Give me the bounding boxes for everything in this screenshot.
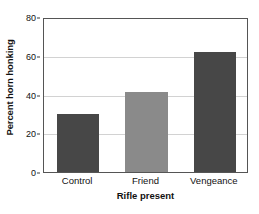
- y-tick-label: 20: [26, 129, 36, 139]
- bar-series: [44, 19, 247, 172]
- y-tick-mark: [37, 18, 40, 19]
- bar-friend: [125, 92, 167, 172]
- y-tick-label: 80: [26, 13, 36, 23]
- y-tick-mark: [37, 173, 40, 174]
- bar-vengeance: [194, 52, 236, 172]
- x-axis-ticks: ControlFriendVengeance: [43, 175, 248, 189]
- x-tick-label-friend: Friend: [132, 175, 159, 186]
- bar-chart-figure: Percent horn honking 020406080 ControlFr…: [0, 0, 259, 214]
- x-tick-label-vengeance: Vengeance: [190, 175, 238, 186]
- x-axis-title: Rifle present: [43, 190, 248, 201]
- y-tick-label: 40: [26, 91, 36, 101]
- y-tick-mark: [37, 95, 40, 96]
- y-tick-label: 0: [31, 168, 36, 178]
- y-tick-label: 60: [26, 52, 36, 62]
- y-axis-ticks: 020406080: [16, 0, 40, 214]
- x-tick-label-control: Control: [62, 175, 93, 186]
- y-tick-mark: [37, 56, 40, 57]
- plot-area: [43, 18, 248, 173]
- bar-control: [57, 114, 99, 172]
- y-axis-title-text: Percent horn honking: [4, 39, 15, 135]
- y-tick-mark: [37, 134, 40, 135]
